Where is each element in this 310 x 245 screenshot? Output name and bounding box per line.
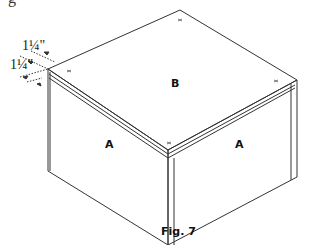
panel-label-a-left: A bbox=[105, 138, 114, 151]
side-panel-a-left bbox=[48, 69, 168, 245]
panel-label-b: B bbox=[171, 77, 179, 90]
box-diagram bbox=[0, 0, 310, 245]
dimension-label-upper: 1¼" bbox=[22, 38, 45, 54]
figure-caption: Fig. 7 bbox=[161, 225, 196, 238]
panel-label-a-right: A bbox=[235, 138, 244, 151]
dimension-label-lower: 1¼" bbox=[10, 57, 33, 73]
side-panel-a-right bbox=[168, 80, 297, 245]
